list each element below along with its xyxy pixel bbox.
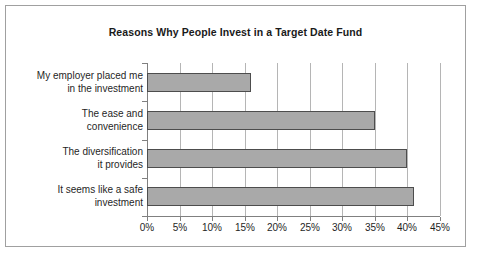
chart-frame: Reasons Why People Invest in a Target Da… [5,5,466,247]
x-axis-label: 15% [230,222,260,233]
x-axis-label: 0% [132,222,162,233]
bar [147,73,251,92]
x-axis-label: 35% [360,222,390,233]
x-tick-30 [342,217,343,221]
category-label-line: it provides [12,159,143,172]
x-tick-5 [180,217,181,221]
bar [147,187,414,206]
category-tick-2 [142,140,147,141]
category-label-line: investment [12,197,143,210]
category-label-line: My employer placed me [12,70,143,83]
category-label: It seems like a safeinvestment [12,184,143,209]
category-tick-3 [142,178,147,179]
category-label: The ease andconvenience [12,108,143,133]
category-label-line: convenience [12,121,143,134]
x-axis-label: 5% [165,222,195,233]
x-tick-15 [245,217,246,221]
x-axis-label: 30% [327,222,357,233]
x-tick-40 [407,217,408,221]
x-tick-35 [375,217,376,221]
category-tick-1 [142,101,147,102]
x-tick-0 [147,217,148,221]
x-axis-label: 20% [262,222,292,233]
chart-title: Reasons Why People Invest in a Target Da… [6,26,465,38]
category-label: My employer placed mein the investment [12,70,143,95]
x-axis-label: 40% [392,222,422,233]
x-axis-label: 25% [295,222,325,233]
x-axis-line [147,216,440,217]
category-label-line: The diversification [12,146,143,159]
x-tick-10 [212,217,213,221]
x-axis-label: 10% [197,222,227,233]
category-tick-0 [142,63,147,64]
x-axis-label: 45% [425,222,455,233]
category-label-line: It seems like a safe [12,184,143,197]
x-tick-20 [277,217,278,221]
category-label-line: The ease and [12,108,143,121]
x-tick-45 [440,217,441,221]
bar [147,111,375,130]
gridline-45 [440,63,441,216]
bar [147,149,407,168]
category-label-line: in the investment [12,83,143,96]
category-label: The diversificationit provides [12,146,143,171]
x-tick-25 [310,217,311,221]
